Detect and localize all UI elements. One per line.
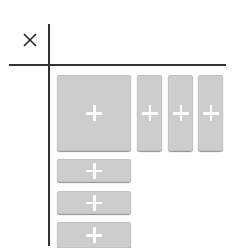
plus-icon <box>86 105 102 121</box>
column-add-tile-1[interactable] <box>137 75 162 151</box>
plus-icon <box>86 163 102 179</box>
plus-icon <box>86 227 102 243</box>
column-add-tile-3[interactable] <box>198 75 223 151</box>
row-add-tile-1[interactable] <box>57 159 131 182</box>
vertical-divider <box>48 24 50 246</box>
row-add-tile-2[interactable] <box>57 191 131 214</box>
plus-icon <box>173 105 189 121</box>
row-add-tile-3[interactable] <box>57 222 131 248</box>
large-add-tile[interactable] <box>57 75 131 151</box>
horizontal-divider <box>9 64 226 66</box>
close-icon[interactable] <box>21 31 39 49</box>
plus-icon <box>142 105 158 121</box>
plus-icon <box>203 105 219 121</box>
column-add-tile-2[interactable] <box>168 75 193 151</box>
plus-icon <box>86 195 102 211</box>
